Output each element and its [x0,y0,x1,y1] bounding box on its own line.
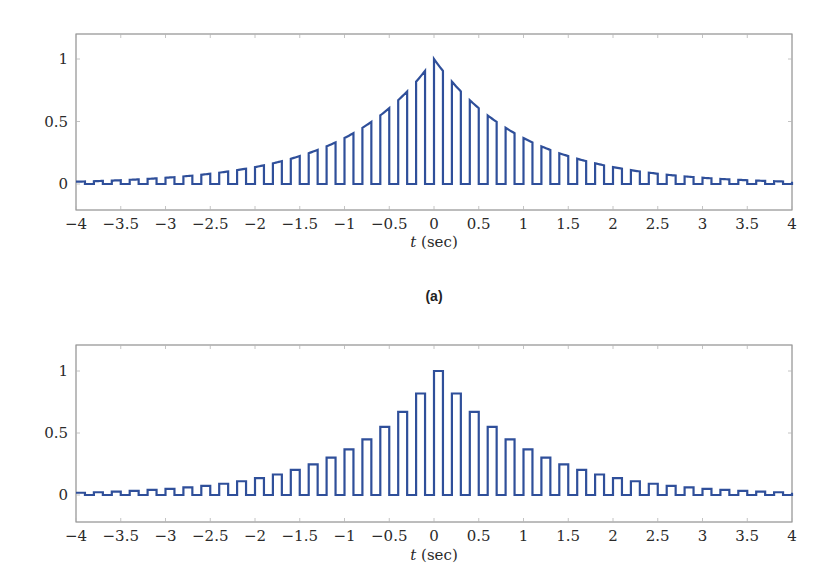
x-tick-label: 0.5 [467,215,491,233]
x-tick-label: 0.5 [467,527,491,545]
x-tick-label: −3.5 [103,527,139,545]
x-tick-label: 2.5 [646,215,670,233]
x-tick-label: −1 [333,215,355,233]
x-tick-label: 1 [519,527,529,545]
y-tick-label: 1 [58,362,68,380]
x-tick-label: 3.5 [735,527,759,545]
y-tick-label: 0.5 [44,113,68,131]
sampled-signal-line [76,59,792,184]
y-tick-label: 1 [58,50,68,68]
x-tick-label: −0.5 [371,527,407,545]
x-tick-label: 3 [698,527,708,545]
y-tick-label: 0 [58,175,68,193]
x-tick-label: −3 [154,215,176,233]
y-tick-label: 0 [58,486,68,504]
x-tick-label: −4 [65,215,87,233]
x-tick-label: 4 [787,527,797,545]
x-tick-label: −3 [154,527,176,545]
x-tick-labels: −4−3.5−3−2.5−2−1.5−1−0.500.511.522.533.5… [65,527,797,545]
x-tick-label: 2 [608,215,618,233]
x-tick-label: −2 [244,527,266,545]
chart-a: −4−3.5−3−2.5−2−1.5−1−0.500.511.522.533.5… [44,34,797,304]
x-tick-labels: −4−3.5−3−2.5−2−1.5−1−0.500.511.522.533.5… [65,215,797,233]
figure: −4−3.5−3−2.5−2−1.5−1−0.500.511.522.533.5… [0,0,837,581]
x-tick-label: 1.5 [556,215,580,233]
chart-b: −4−3.5−3−2.5−2−1.5−1−0.500.511.522.533.5… [44,345,797,564]
x-axis-label: t (sec) [410,233,457,251]
x-tick-label: −2.5 [192,527,228,545]
y-tick-labels: 00.51 [44,50,68,193]
x-tick-label: 0 [429,215,439,233]
x-tick-label: −4 [65,527,87,545]
y-tick-label: 0.5 [44,424,68,442]
x-tick-label: 3 [698,215,708,233]
x-tick-label: 0 [429,527,439,545]
x-tick-label: −0.5 [371,215,407,233]
caption-a: (a) [425,288,442,304]
x-tick-label: 1 [519,215,529,233]
x-tick-label: 3.5 [735,215,759,233]
x-tick-label: −1 [333,527,355,545]
x-tick-label: 1.5 [556,527,580,545]
x-tick-label: 2 [608,527,618,545]
x-tick-label: −2.5 [192,215,228,233]
x-axis-label: t (sec) [410,546,457,564]
x-tick-label: −3.5 [103,215,139,233]
x-tick-label: 4 [787,215,797,233]
x-tick-label: −2 [244,215,266,233]
y-tick-labels: 00.51 [44,362,68,504]
x-tick-label: −1.5 [282,527,318,545]
x-tick-label: −1.5 [282,215,318,233]
x-tick-label: 2.5 [646,527,670,545]
sampled-signal-line [76,371,792,495]
